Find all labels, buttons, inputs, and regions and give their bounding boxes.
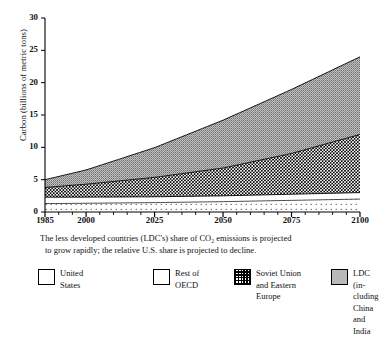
- y-tick-label: 0: [16, 207, 38, 216]
- legend-swatch-icon: [38, 269, 55, 285]
- legend-item-3[interactable]: Soviet Union and Eastern Europe: [234, 268, 301, 303]
- legend-item-2[interactable]: Rest of OECD: [153, 268, 199, 291]
- y-tick-label: 20: [16, 78, 38, 87]
- y-tick-label: 30: [16, 13, 38, 22]
- axis-lines: [36, 18, 360, 222]
- legend-label: Rest of OECD: [175, 268, 199, 291]
- y-tick-label: 15: [16, 110, 38, 119]
- legend-item-1[interactable]: United States: [38, 268, 83, 291]
- x-tick-label: 2100: [351, 215, 369, 225]
- y-axis-tick-labels: 051015202530: [14, 18, 38, 212]
- x-axis-tick-labels: 198520002025205020752100: [45, 215, 360, 229]
- x-tick-label: 2000: [77, 215, 95, 225]
- legend-swatch-icon: [153, 269, 170, 285]
- caption-line-2: to grow rapidly; the relative U.S. share…: [40, 245, 365, 257]
- legend-label: Soviet Union and Eastern Europe: [256, 268, 301, 303]
- chart-legend: United StatesRest of OECDSoviet Union an…: [38, 268, 368, 324]
- y-tick-label: 25: [16, 45, 38, 54]
- y-tick-label: 10: [16, 142, 38, 151]
- y-tick-label: 5: [16, 175, 38, 184]
- x-tick-label: 2050: [214, 215, 232, 225]
- legend-swatch-icon: [234, 269, 251, 285]
- legend-swatch-icon: [331, 269, 348, 285]
- legend-item-4[interactable]: LDC (in- cluding China and India: [331, 268, 379, 337]
- x-tick-label: 2075: [283, 215, 301, 225]
- plot-area: [45, 18, 360, 212]
- legend-label: United States: [60, 268, 83, 291]
- x-tick-label: 2025: [146, 215, 164, 225]
- legend-label: LDC (in- cluding China and India: [353, 268, 379, 337]
- figure-caption: The less developed countries (LDC's) sha…: [40, 233, 365, 256]
- caption-line-1: The less developed countries (LDC's) sha…: [40, 233, 291, 243]
- x-tick-label: 1985: [36, 215, 54, 225]
